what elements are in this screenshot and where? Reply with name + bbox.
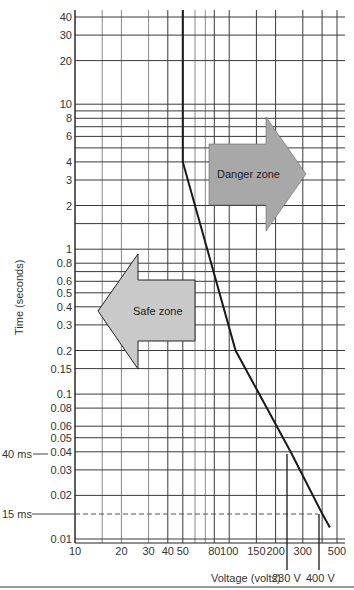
- y-tick-label: 3: [66, 174, 72, 186]
- x-tick-label: 200: [266, 545, 284, 557]
- x-tick-label: 50: [177, 545, 189, 557]
- y-tick-label: 40: [60, 11, 72, 23]
- y-tick-label: 0.03: [51, 464, 72, 476]
- x-tick-label: 100: [220, 545, 238, 557]
- y-tick-label: 0.06: [51, 420, 72, 432]
- x-axis-label: Voltage (volts): [211, 572, 281, 584]
- bottom-separator: [0, 586, 354, 588]
- x-tick-labels: 102030405080100150200300500: [69, 545, 346, 557]
- x-tick-label: 30: [142, 545, 154, 557]
- y-tick-label: 0.15: [51, 363, 72, 375]
- y-tick-label: 6: [66, 130, 72, 142]
- y-tick-label: 8: [66, 112, 72, 124]
- y-tick-label: 0.01: [51, 533, 72, 545]
- vertical-grid: [75, 10, 337, 543]
- x-tick-label: 300: [294, 545, 312, 557]
- y-tick-label: 4: [66, 156, 72, 168]
- y-tick-label: 0.5: [57, 287, 72, 299]
- x-tick-label: 80: [208, 545, 220, 557]
- danger-zone-arrow: Danger zone: [209, 117, 306, 231]
- y-tick-label: 0.8: [57, 257, 72, 269]
- x-tick-label: 40: [162, 545, 174, 557]
- horizontal-grid: [75, 17, 345, 539]
- time-voltage-chart: Danger zone Safe zone 15 ms 40 ms 102030…: [0, 0, 354, 590]
- 400v-label: 400 V: [306, 572, 335, 584]
- x-tick-label: 150: [247, 545, 265, 557]
- y-tick-label: 10: [60, 98, 72, 110]
- y-tick-label: 0.1: [57, 388, 72, 400]
- danger-zone-label: Danger zone: [217, 168, 280, 180]
- y-tick-label: 0.04: [51, 446, 72, 458]
- y-tick-label: 1: [66, 243, 72, 255]
- y-tick-label: 0.4: [57, 301, 72, 313]
- y-tick-label: 0.2: [57, 345, 72, 357]
- safe-zone-label: Safe zone: [133, 305, 183, 317]
- x-tick-label: 10: [69, 545, 81, 557]
- y-tick-label: 0.08: [51, 402, 72, 414]
- y-tick-label: 0.05: [51, 432, 72, 444]
- y-tick-label: 20: [60, 55, 72, 67]
- y-tick-label: 0.6: [57, 275, 72, 287]
- 230v-label: 230 V: [272, 572, 301, 584]
- x-tick-label: 500: [328, 545, 346, 557]
- y-axis-label: Time (seconds): [13, 260, 25, 335]
- 15ms-label: 15 ms: [2, 508, 32, 520]
- y-tick-label: 0.02: [51, 489, 72, 501]
- y-tick-labels: 403020108643210.80.60.50.40.30.20.150.10…: [51, 11, 72, 545]
- y-tick-label: 0.3: [57, 319, 72, 331]
- y-tick-label: 30: [60, 29, 72, 41]
- 40ms-label: 40 ms: [2, 448, 32, 460]
- y-tick-label: 2: [66, 200, 72, 212]
- x-tick-label: 20: [115, 545, 127, 557]
